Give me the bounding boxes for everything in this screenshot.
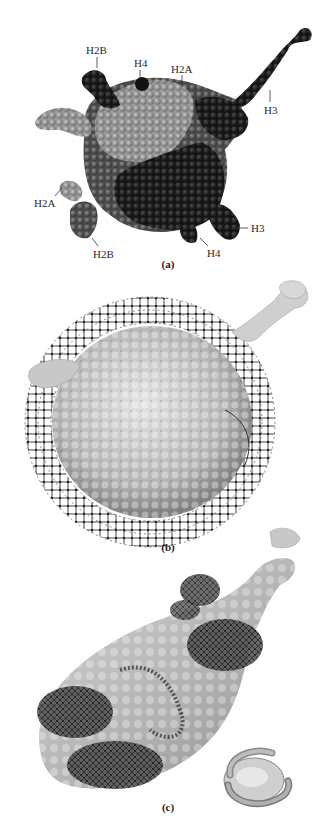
histone-label-h4-bottom: H4 [207,248,220,259]
histone-label-h2b-top: H2B [86,45,107,56]
nucleosome-top-view-image [0,270,332,550]
panel-c: (c) [0,550,332,823]
panel-b: (b) [0,270,332,550]
histone-label-h3-lower: H3 [251,223,264,234]
histone-octamer-spacefill-image [0,0,332,270]
panel-label-c: (c) [162,802,174,813]
histone-label-h2b-bottom: H2B [93,249,114,260]
nucleosome-schematic-inset [224,751,289,803]
panel-label-a: (a) [162,259,175,270]
histone-label-h2a-left: H2A [34,198,55,209]
histone-label-h4-top: H4 [134,58,147,69]
histone-label-h3-right: H3 [264,105,277,116]
nucleosome-side-view-image [0,550,332,823]
histone-label-h2a-top: H2A [171,64,192,75]
panel-a: H2B H4 H2A H3 H2A H3 H2B H4 (a) [0,0,332,270]
